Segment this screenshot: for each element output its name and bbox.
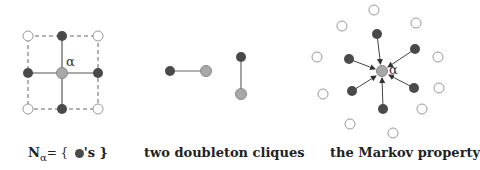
open-node [433, 52, 443, 62]
caption-neighborhood: Nα= { 's } [28, 145, 108, 163]
caption-suffix: 's } [84, 145, 108, 160]
gray-node [201, 66, 212, 77]
neighbor-node [347, 86, 357, 96]
center-node-alpha [377, 66, 388, 77]
caption-doubleton: two doubleton cliques [144, 145, 304, 160]
dark-node-icon [75, 149, 84, 158]
dark-node [236, 52, 246, 62]
open-node [388, 128, 398, 138]
open-node [318, 89, 328, 99]
neighbor-node [378, 104, 388, 114]
open-node [337, 21, 347, 31]
open-node [23, 104, 33, 114]
neighbor-node [372, 29, 382, 39]
neighbor-node [23, 68, 33, 78]
open-node [417, 104, 427, 114]
caption-markov: the Markov property [330, 145, 480, 160]
open-node [23, 31, 33, 41]
open-node [93, 104, 103, 114]
markov-property [312, 5, 444, 138]
open-node [434, 83, 444, 93]
neighbor-node [344, 54, 354, 64]
center-node-alpha [57, 68, 68, 79]
open-node [345, 119, 355, 129]
neighbor-node [57, 104, 67, 114]
gray-node [236, 89, 247, 100]
neighbor-node [409, 83, 419, 93]
neighbor-node [410, 44, 420, 54]
dark-node [165, 66, 175, 76]
alpha-label: α [66, 54, 75, 69]
open-node [312, 52, 322, 62]
doubleton-cliques [165, 52, 247, 100]
open-node [411, 18, 421, 28]
neighbor-node [57, 31, 67, 41]
caption-eq: = { [47, 146, 69, 160]
open-node [93, 31, 103, 41]
alpha-label: α [389, 62, 398, 77]
open-node [369, 5, 379, 15]
caption-n: N [28, 145, 40, 160]
neighbor-node [93, 68, 103, 78]
caption-sub-alpha: α [40, 152, 47, 163]
neighborhood-grid [23, 31, 103, 114]
